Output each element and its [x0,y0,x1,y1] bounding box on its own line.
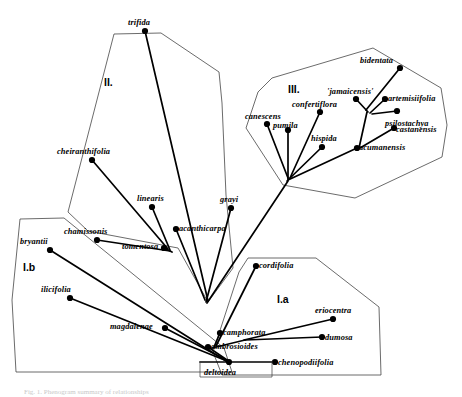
terminal-node[interactable] [330,316,336,322]
terminal-node[interactable] [67,295,73,301]
branch [287,147,322,181]
taxon-label: ambrosioides [211,343,258,351]
branch [145,31,208,301]
taxon-label: bidentata [360,57,393,65]
taxon-label: hispida [311,135,337,143]
taxon-label: grayi [220,196,238,204]
group-label-Ia: I.a [277,294,289,305]
terminal-node[interactable] [228,205,234,211]
terminal-node[interactable] [394,108,400,114]
taxon-label: 'jamaicensis' [327,88,373,96]
taxon-label: bryantii [20,238,48,246]
taxon-label: artemisiifolia [388,95,435,103]
group-label-Ib: I.b [23,262,35,273]
group-label-III: III. [288,84,300,95]
terminal-node[interactable] [89,157,95,163]
taxon-label: deltoidea [204,369,236,377]
branch [372,111,397,114]
group-hull-II [68,33,233,302]
taxon-label: camphorata [223,329,265,337]
terminal-node[interactable] [162,325,168,331]
terminal-node[interactable] [264,121,270,127]
terminal-node[interactable] [319,144,325,150]
terminal-node[interactable] [142,28,148,34]
taxon-label: acanthicarpa [179,225,226,233]
figure-caption-truncated: Fig. 1. Phenogram summary of relationshi… [24,388,254,396]
taxon-label: castanensis [396,126,437,134]
taxon-label: magdalenae [110,323,153,331]
taxon-label: ilicifolia [41,286,71,294]
terminal-node[interactable] [353,96,359,102]
terminal-node[interactable] [397,65,403,71]
terminal-node[interactable] [149,204,155,210]
taxon-label: acumanensis [359,144,405,152]
terminal-node[interactable] [94,237,100,243]
taxon-label: cordifolia [259,262,294,270]
taxon-label: pumila [273,122,298,130]
taxon-label: confertiflora [292,101,337,109]
terminal-node[interactable] [161,245,167,251]
terminal-node[interactable] [317,109,323,115]
terminal-node[interactable] [226,359,232,365]
taxon-label: chamissonis [64,228,107,236]
branch [288,148,357,180]
taxon-label: linearis [137,195,164,203]
taxon-label: eriocentra [315,307,351,315]
terminal-node[interactable] [47,247,53,253]
taxon-label: chenopodiifolia [278,359,333,367]
taxon-label: dumosa [325,334,353,342]
figure-canvas: trifidacheiranthifolialinearischamissoni… [0,0,462,397]
branch [176,229,205,300]
branch [267,124,288,178]
taxon-label: tomentosa [122,243,158,251]
taxon-label: trifida [128,19,150,27]
taxon-label: cheiranthifolia [57,148,110,156]
group-label-II: II. [104,77,113,88]
